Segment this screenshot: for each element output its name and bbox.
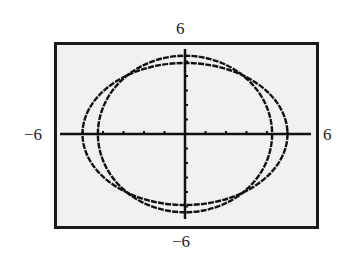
y-min-label: −6 <box>172 233 190 250</box>
plot-frame <box>56 44 318 228</box>
y-max-label: 6 <box>176 20 185 37</box>
x-min-label: −6 <box>24 126 42 143</box>
x-max-label: 6 <box>323 126 332 143</box>
graph-window <box>0 0 350 264</box>
